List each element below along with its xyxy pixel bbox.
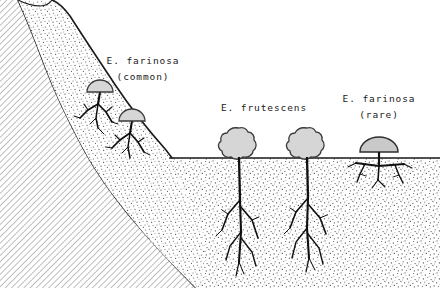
label-flat-shallow-root-species: E. farinosa [343, 93, 416, 104]
stem [239, 157, 240, 200]
cross-section-illustration: E. farinosa (common) E. frutescens E. fa… [0, 0, 440, 288]
label-slope-qualifier: (common) [117, 71, 170, 82]
figure-root: E. farinosa (common) E. frutescens E. fa… [0, 0, 440, 288]
label-flat-deep-root-species: E. frutescens [221, 102, 307, 113]
stem [307, 157, 308, 198]
label-slope-species: E. farinosa [107, 55, 180, 66]
label-flat-shallow-root-qualifier: (rare) [359, 109, 399, 120]
